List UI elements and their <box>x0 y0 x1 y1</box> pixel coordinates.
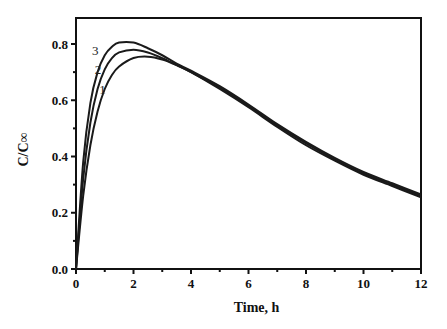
curve-3 <box>76 42 421 269</box>
x-tick-labels: 024681012 <box>73 276 428 291</box>
x-tick-label: 8 <box>303 276 310 291</box>
x-tick-label: 2 <box>130 276 137 291</box>
y-tick-label: 0.6 <box>52 93 69 108</box>
x-tick-label: 10 <box>357 276 370 291</box>
x-tick-label: 6 <box>245 276 252 291</box>
y-axis-title: C/C∞ <box>16 132 31 166</box>
axis-ticks <box>71 44 421 274</box>
curve-2 <box>76 50 421 269</box>
y-tick-labels: 0.00.20.40.60.8 <box>52 37 69 277</box>
plot-frame <box>76 18 421 269</box>
line-chart: 024681012 0.00.20.40.60.8 123 Time, h C/… <box>0 0 447 329</box>
y-tick-label: 0.8 <box>52 37 69 52</box>
x-tick-label: 12 <box>415 276 428 291</box>
x-tick-label: 4 <box>188 276 195 291</box>
curve-label-2: 2 <box>95 62 102 77</box>
x-tick-label: 0 <box>73 276 80 291</box>
y-tick-label: 0.4 <box>52 149 69 164</box>
curve-1 <box>76 57 421 269</box>
x-axis-title: Time, h <box>234 300 280 315</box>
data-curves <box>76 42 421 269</box>
curve-label-3: 3 <box>92 43 99 58</box>
y-tick-label: 0.2 <box>52 205 68 220</box>
curve-label-1: 1 <box>99 82 106 97</box>
y-tick-label: 0.0 <box>52 262 68 277</box>
